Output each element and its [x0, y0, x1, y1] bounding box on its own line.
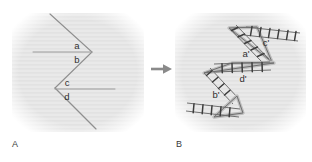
angle-label-b-prime: b': [212, 89, 219, 100]
panel-a: a b c d: [12, 13, 144, 132]
panel-label-a: A: [12, 139, 18, 149]
angle-label-b: b: [74, 54, 79, 65]
figure-canvas: a b c d: [0, 0, 312, 162]
panel-a-background: [12, 13, 144, 132]
angle-label-c: c: [65, 77, 70, 88]
angle-label-c-prime: c': [263, 37, 270, 48]
panel-b: a' b' c' d': [175, 13, 306, 132]
angle-label-d-prime: d': [239, 73, 246, 84]
transition-arrow-icon: [151, 64, 172, 74]
panel-label-b: B: [176, 139, 182, 149]
angle-label-d: d: [64, 91, 69, 102]
ladder-arm-middle-right: [214, 62, 271, 73]
angle-label-a-prime: a': [242, 48, 249, 59]
angle-label-a: a: [74, 40, 80, 51]
